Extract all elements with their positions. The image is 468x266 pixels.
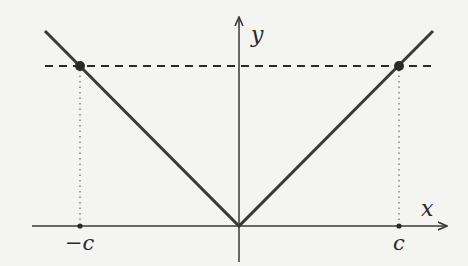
axis-point-neg-c bbox=[77, 223, 82, 228]
abs-value-diagram: y x −c c bbox=[0, 0, 468, 266]
intersection-point-left bbox=[75, 61, 85, 71]
tick-label-pos-c: c bbox=[393, 231, 405, 255]
x-axis-label: x bbox=[421, 196, 434, 221]
y-axis-label: y bbox=[250, 22, 264, 47]
axis-point-pos-c bbox=[396, 223, 401, 228]
tick-label-neg-c: −c bbox=[65, 231, 95, 255]
intersection-point-right bbox=[394, 61, 404, 71]
